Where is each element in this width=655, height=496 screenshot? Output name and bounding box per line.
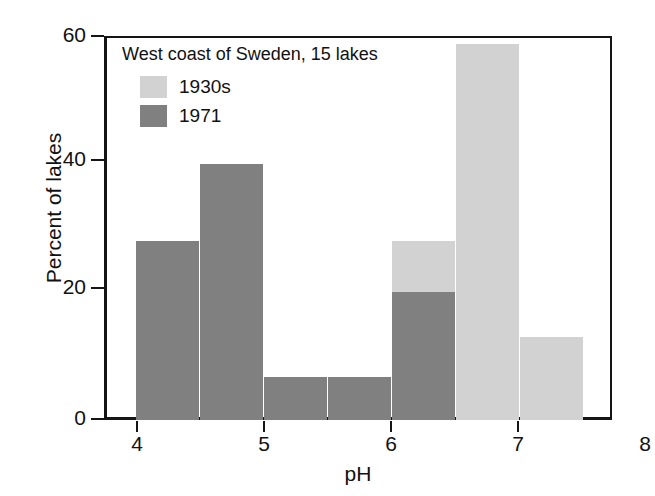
chart-title: West coast of Sweden, 15 lakes [122, 44, 378, 65]
bar-1971-ph6.5 [392, 292, 455, 420]
bar-1971-ph5.0 [200, 164, 263, 420]
legend: 1930s 1971 [140, 72, 231, 130]
y-tick-mark-20 [91, 287, 104, 289]
bar-1971-ph6.0 [328, 377, 391, 420]
y-axis-label: Percent of lakes [42, 58, 66, 358]
y-tick-label-60: 60 [26, 24, 86, 45]
x-tick-label-6: 6 [371, 432, 411, 456]
legend-label-1930s: 1930s [179, 76, 231, 98]
x-tick-label-4: 4 [117, 432, 157, 456]
bar-1930s-ph7.5 [520, 337, 583, 420]
plot-area: West coast of Sweden, 15 lakes 1930s 197… [104, 36, 612, 420]
x-tick-mark-7 [517, 421, 519, 432]
bar-1930s-ph6.5 [392, 241, 455, 292]
x-tick-mark-4 [136, 421, 138, 432]
y-tick-mark-0 [91, 418, 104, 420]
y-tick-label-0: 0 [26, 407, 86, 428]
legend-item-1971: 1971 [140, 101, 231, 130]
y-tick-mark-60 [91, 35, 104, 37]
x-axis-label: pH [104, 462, 612, 486]
bar-1930s-ph7.0 [456, 44, 519, 420]
legend-label-1971: 1971 [179, 105, 221, 127]
x-tick-label-7: 7 [498, 432, 538, 456]
x-tick-mark-6 [390, 421, 392, 432]
x-tick-label-8: 8 [625, 432, 655, 456]
x-tick-mark-5 [263, 421, 265, 432]
y-tick-mark-40 [91, 159, 104, 161]
legend-swatch-1930s [140, 76, 167, 98]
bar-1971-ph5.5 [264, 377, 327, 420]
x-tick-label-5: 5 [244, 432, 284, 456]
legend-swatch-1971 [140, 105, 167, 127]
legend-item-1930s: 1930s [140, 72, 231, 101]
bar-1971-ph4.5 [136, 241, 199, 420]
